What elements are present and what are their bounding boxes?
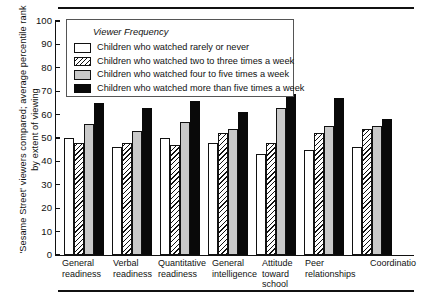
bar — [256, 154, 266, 255]
x-axis-category-label: Peer relationships — [305, 258, 373, 279]
bar-group — [304, 21, 346, 255]
bar — [132, 131, 142, 255]
bar — [228, 129, 238, 255]
bar — [372, 126, 382, 255]
legend-label: Children who watched two to three times … — [97, 57, 294, 66]
y-tick-label: 10 — [28, 227, 52, 237]
bar — [190, 101, 200, 255]
bar — [276, 108, 286, 255]
bar — [334, 98, 344, 255]
bar — [304, 150, 314, 255]
bar — [74, 143, 84, 255]
legend-swatch — [74, 84, 91, 94]
y-tick-label: 30 — [28, 180, 52, 190]
y-tick-label: 70 — [28, 86, 52, 96]
legend-title: Viewer Frequency — [93, 26, 293, 37]
bottom-rule — [58, 290, 414, 292]
y-tick-label: 60 — [28, 110, 52, 120]
y-tick-label: 0 — [28, 250, 52, 260]
bar — [238, 112, 248, 255]
y-tick-label: 20 — [28, 203, 52, 213]
x-axis-baseline — [55, 255, 414, 256]
y-tick-label: 90 — [28, 39, 52, 49]
legend-item: Children who watched rarely or never — [74, 41, 293, 55]
legend-swatch — [74, 57, 91, 67]
y-tick-label: 80 — [28, 63, 52, 73]
legend-label: Children who watched rarely or never — [97, 43, 249, 52]
bar — [208, 143, 218, 255]
x-axis-category-label: Attitude toward school — [262, 258, 307, 290]
bar — [286, 94, 296, 255]
bar — [170, 145, 180, 255]
bar-group — [352, 21, 394, 255]
legend-item: Children who watched four to five times … — [74, 68, 293, 82]
bar — [160, 138, 170, 255]
legend-swatch — [74, 43, 91, 53]
legend-label: Children who watched more than five time… — [97, 84, 304, 93]
bar — [122, 143, 132, 255]
bar — [84, 124, 94, 255]
legend: Viewer Frequency Children who watched ra… — [66, 19, 294, 97]
y-tick-label: 50 — [28, 133, 52, 143]
legend-item: Children who watched two to three times … — [74, 55, 293, 69]
x-axis-category-label: Coordinatio — [370, 258, 421, 269]
bar — [218, 133, 228, 255]
y-tick-label: 40 — [28, 156, 52, 166]
bar — [94, 103, 104, 255]
bar — [314, 133, 324, 255]
y-tick-label: 100 — [28, 16, 52, 26]
bar — [266, 143, 276, 255]
x-axis-category-label: Verbal readiness — [113, 258, 161, 279]
bar — [362, 129, 372, 255]
bar — [112, 147, 122, 255]
x-axis-category-label: General readiness — [62, 258, 112, 279]
bar — [382, 119, 392, 255]
legend-swatch — [74, 70, 91, 80]
chart-figure: 'Sesame Street' viewers compared; averag… — [0, 0, 421, 305]
bar — [64, 138, 74, 255]
x-axis-category-label: Quantitative readiness — [158, 258, 213, 279]
bar — [324, 126, 334, 255]
bar — [142, 108, 152, 255]
legend-item: Children who watched more than five time… — [74, 82, 293, 96]
bar — [180, 122, 190, 255]
legend-label: Children who watched four to five times … — [97, 70, 289, 79]
bar — [352, 147, 362, 255]
top-rule — [58, 7, 414, 9]
x-axis-category-label: General intelligence — [212, 258, 264, 279]
legend-entries: Children who watched rarely or neverChil… — [67, 41, 293, 95]
